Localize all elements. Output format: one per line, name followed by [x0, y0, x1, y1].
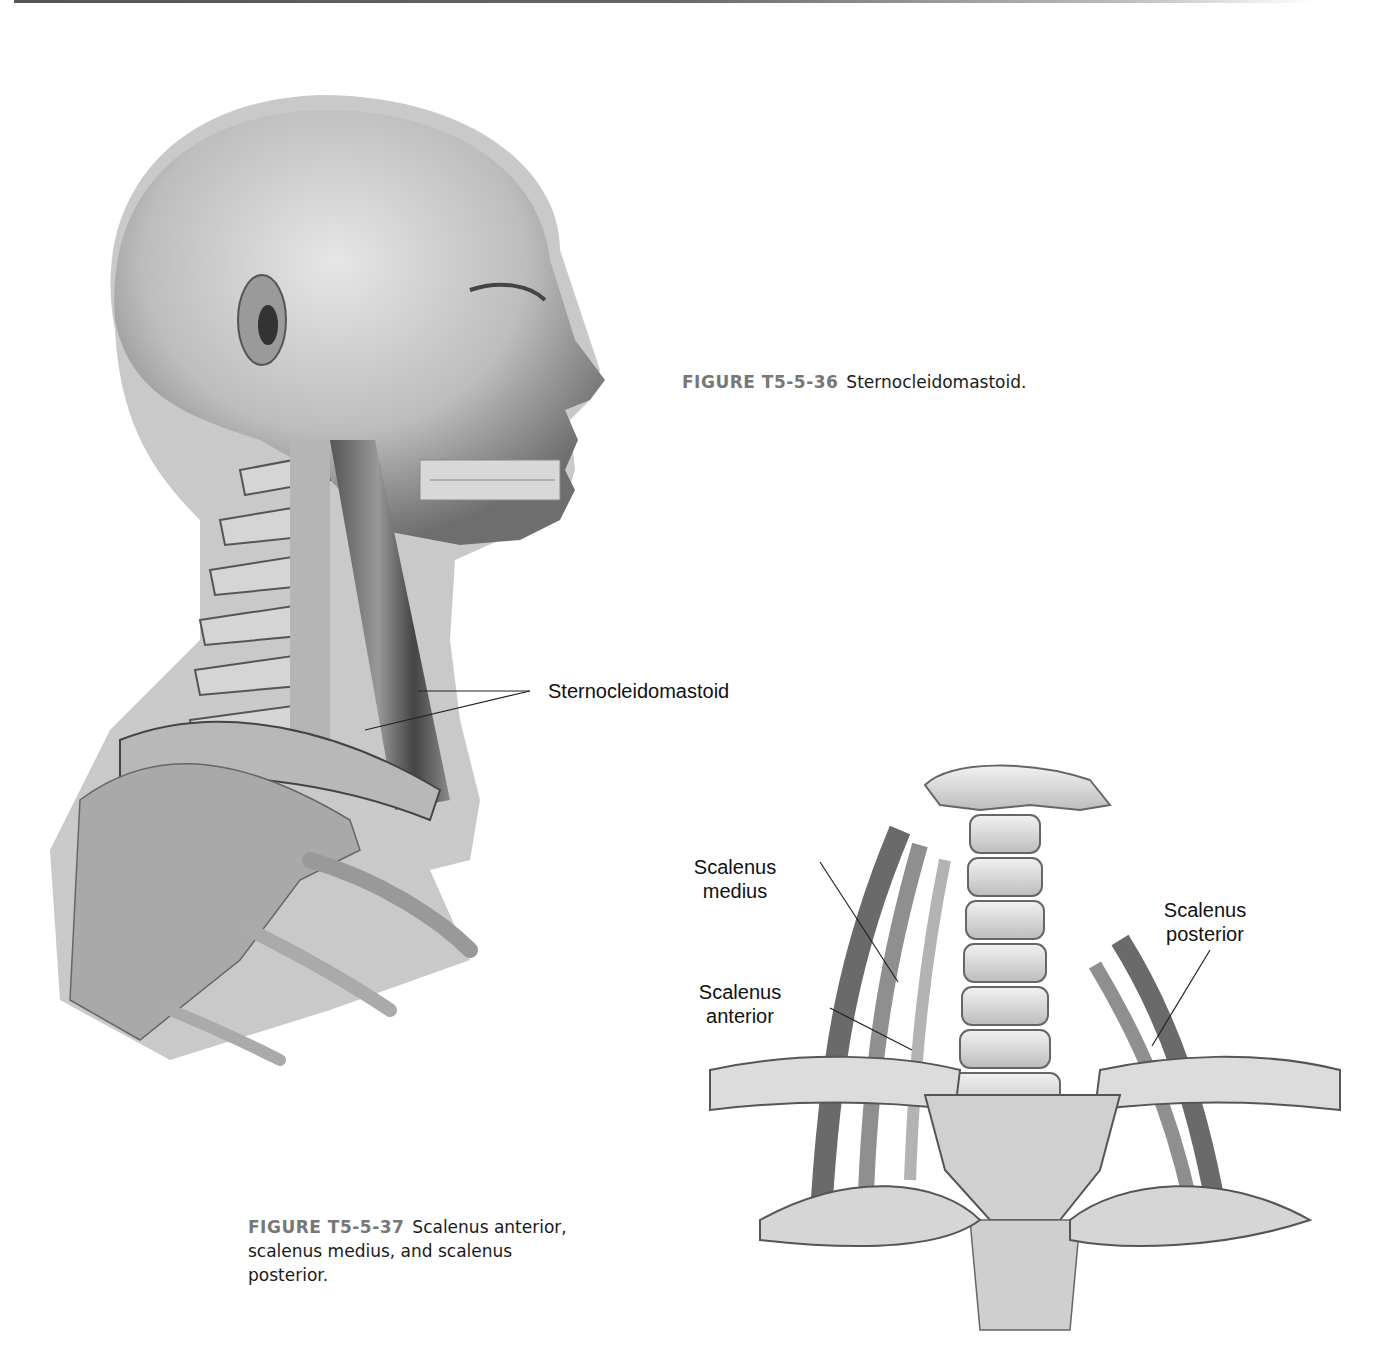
- figure-number: FIGURE T5-5-36: [682, 372, 838, 392]
- head-neck-illustration: [0, 0, 700, 1100]
- label-scalenus-anterior: Scalenus anterior: [685, 980, 795, 1028]
- caption-text-line2: scalenus medius, and scalenus: [248, 1239, 648, 1263]
- figure-caption-t5-5-36: FIGURE T5-5-36Sternocleidomastoid.: [682, 370, 1026, 394]
- figure-caption-t5-5-37: FIGURE T5-5-37Scalenus anterior, scalenu…: [248, 1215, 648, 1287]
- label-line: Scalenus: [680, 855, 790, 879]
- label-sternocleidomastoid: Sternocleidomastoid: [548, 679, 729, 703]
- caption-text-line1: Scalenus anterior,: [412, 1217, 566, 1237]
- label-line: posterior: [1150, 922, 1260, 946]
- label-scalenus-posterior: Scalenus posterior: [1150, 898, 1260, 946]
- caption-text-line3: posterior.: [248, 1263, 648, 1287]
- label-line: anterior: [685, 1004, 795, 1028]
- figure-sternocleidomastoid-illustration: [0, 0, 700, 1100]
- scalenes-illustration: [700, 750, 1360, 1330]
- figure-number: FIGURE T5-5-37: [248, 1217, 404, 1237]
- label-line: Scalenus: [1150, 898, 1260, 922]
- figure-scalenes-illustration: [700, 750, 1360, 1330]
- caption-text: Sternocleidomastoid.: [846, 372, 1026, 392]
- label-line: Scalenus: [685, 980, 795, 1004]
- label-line: medius: [680, 879, 790, 903]
- label-scalenus-medius: Scalenus medius: [680, 855, 790, 903]
